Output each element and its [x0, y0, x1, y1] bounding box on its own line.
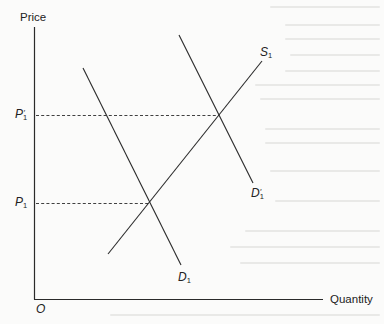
demand-curve-d1-prime: [179, 35, 253, 183]
price-label-p1: P1: [15, 196, 27, 210]
demand-curve-d1: [83, 68, 181, 265]
supply-curve-s1: [108, 61, 262, 254]
curve-label-s1: S1: [260, 46, 272, 60]
x-axis-label: Quantity: [330, 294, 373, 306]
y-axis-label: Price: [20, 12, 46, 24]
curve-label-d1: D1: [178, 271, 191, 285]
price-label-p1-prime: P1′: [15, 108, 25, 122]
supply-demand-diagram: [0, 0, 384, 324]
curve-label-d1-prime: D1′: [251, 187, 261, 201]
origin-label: O: [36, 303, 45, 315]
